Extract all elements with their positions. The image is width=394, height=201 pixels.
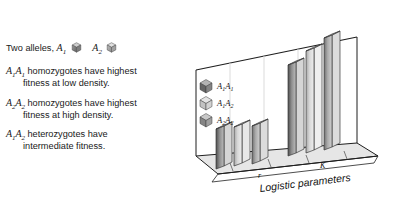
axis-tick bbox=[374, 156, 378, 163]
cube-icon bbox=[106, 42, 117, 53]
intro-line: Two alleles, A1 A2 bbox=[6, 42, 188, 56]
legend-item-A1A1: A1A1 bbox=[200, 80, 233, 94]
intro-prefix: Two alleles, bbox=[6, 43, 54, 53]
bar-r-A1A2 bbox=[234, 120, 250, 166]
bar-r-A2A2 bbox=[252, 119, 268, 164]
statement-line-2: fitness at high density. bbox=[6, 111, 188, 120]
cube-icon bbox=[71, 42, 82, 53]
statement-line-1: homozygotes have highest bbox=[27, 98, 136, 108]
statement-item: A1A2 heterozygotes have intermediate fit… bbox=[6, 129, 188, 151]
bar-K-A1A2 bbox=[306, 44, 322, 153]
statement-line-2: intermediate fitness. bbox=[6, 142, 188, 151]
bar-K-A1A1 bbox=[288, 58, 304, 156]
caption-block: Two alleles, A1 A2 bbox=[6, 42, 188, 161]
axis-tick bbox=[212, 174, 218, 182]
axis-title-x: Logistic parameters bbox=[259, 171, 352, 194]
statement-line-1: heterozygotes have bbox=[27, 129, 107, 139]
statement-genotype: A1A2 bbox=[6, 128, 25, 139]
axis-tick-label-K: K bbox=[319, 161, 326, 170]
statement-item: A1A1 homozygotes have highest fitness at… bbox=[6, 66, 188, 88]
figure-root: Two alleles, A1 A2 bbox=[0, 0, 394, 201]
statement-line-1: homozygotes have highest bbox=[27, 66, 136, 76]
bar-chart-3d: A1A1 A1A2 A2 bbox=[188, 16, 394, 201]
legend-item-A1A2: A1A2 bbox=[200, 97, 233, 111]
statement-genotype: A2A2 bbox=[6, 97, 25, 108]
legend-item-A2A2: A2A2 bbox=[200, 114, 233, 128]
statement-line-2: fitness at low density. bbox=[6, 79, 188, 88]
bar-K-A2A2 bbox=[324, 31, 340, 150]
axis-tick-label-r: r bbox=[258, 171, 262, 180]
chart-legend: A1A1 A1A2 A2 bbox=[200, 80, 233, 128]
statement-item: A2A2 homozygotes have highest fitness at… bbox=[6, 98, 188, 120]
bar-r-A1A1 bbox=[216, 122, 232, 169]
allele-1-label: A1 bbox=[57, 42, 67, 53]
statement-genotype: A1A1 bbox=[6, 65, 25, 76]
allele-2-label: A2 bbox=[92, 42, 102, 53]
